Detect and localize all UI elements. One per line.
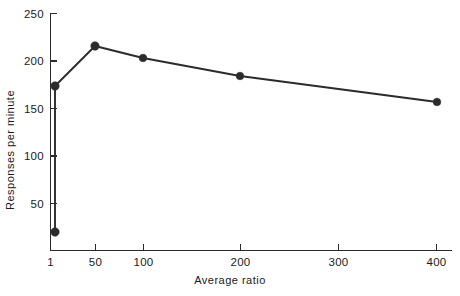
x-tick-label-400: 400 (426, 256, 446, 268)
y-tick-label-100: 100 (24, 150, 44, 162)
data-point (91, 42, 99, 50)
x-tick-label-200: 200 (230, 256, 250, 268)
x-tick-label-1: 1 (47, 256, 54, 268)
x-tick-label-50: 50 (89, 256, 102, 268)
y-tick-label-50: 50 (31, 198, 44, 210)
data-point (433, 98, 441, 106)
data-point (51, 82, 59, 90)
data-points (51, 42, 441, 236)
y-axis-ticks (51, 14, 58, 204)
y-tick-label-250: 250 (24, 8, 44, 20)
x-axis-title: Average ratio (194, 274, 266, 286)
y-tick-label-150: 150 (24, 103, 44, 115)
x-tick-label-100: 100 (133, 256, 153, 268)
data-point (236, 72, 244, 80)
x-tick-label-300: 300 (328, 256, 348, 268)
y-tick-label-200: 200 (24, 55, 44, 67)
data-series-line (55, 46, 437, 232)
x-axis-ticks (51, 244, 437, 251)
data-point (51, 228, 59, 236)
line-chart: 250 200 150 100 50 1 50 100 200 300 400 (0, 0, 460, 296)
y-axis-title: Responses per minute (4, 90, 16, 210)
chart-figure: 250 200 150 100 50 1 50 100 200 300 400 (0, 0, 460, 296)
y-axis-tick-labels: 250 200 150 100 50 (24, 8, 44, 210)
data-point (139, 54, 147, 62)
x-axis-tick-labels: 1 50 100 200 300 400 (47, 256, 446, 268)
